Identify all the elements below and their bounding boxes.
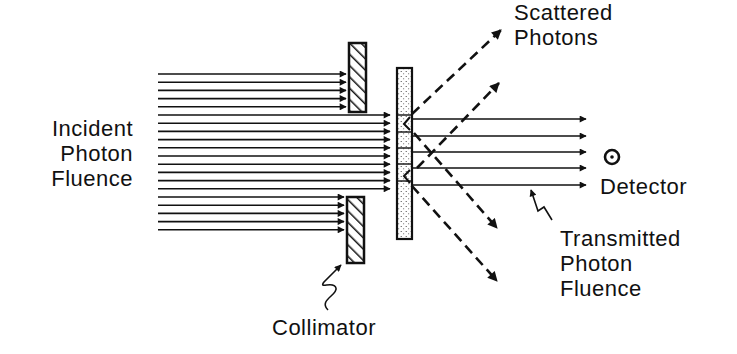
label-line: Fluence (0, 166, 133, 191)
detector-label: Detector (600, 174, 687, 199)
label-line: Incident (0, 116, 133, 141)
label-line: Transmitted (560, 226, 681, 251)
collimator-top (349, 43, 366, 112)
scattered-photon-arrows (412, 30, 501, 281)
label-line: Photons (514, 25, 613, 50)
label-line: Photon (0, 141, 133, 166)
scattered-photons-label: Scattered Photons (514, 0, 613, 50)
collimator-label: Collimator (272, 315, 376, 340)
transmitted-photon-fluence-label: Transmitted Photon Fluence (560, 226, 681, 301)
incident-photon-fluence-label: Incident Photon Fluence (0, 116, 133, 191)
collimator-bottom (347, 197, 364, 263)
label-line: Scattered (514, 0, 613, 25)
collimator-pointer-arrow (323, 265, 341, 310)
label-line: Fluence (560, 276, 681, 301)
photon-attenuation-diagram: Incident Photon Fluence Scattered Photon… (0, 0, 737, 354)
transmitted-photon-arrows (412, 119, 586, 185)
label-line: Photon (560, 251, 681, 276)
transmitted-pointer-arrow (531, 190, 552, 220)
detector-icon (605, 150, 619, 164)
sample-slab (397, 68, 412, 239)
